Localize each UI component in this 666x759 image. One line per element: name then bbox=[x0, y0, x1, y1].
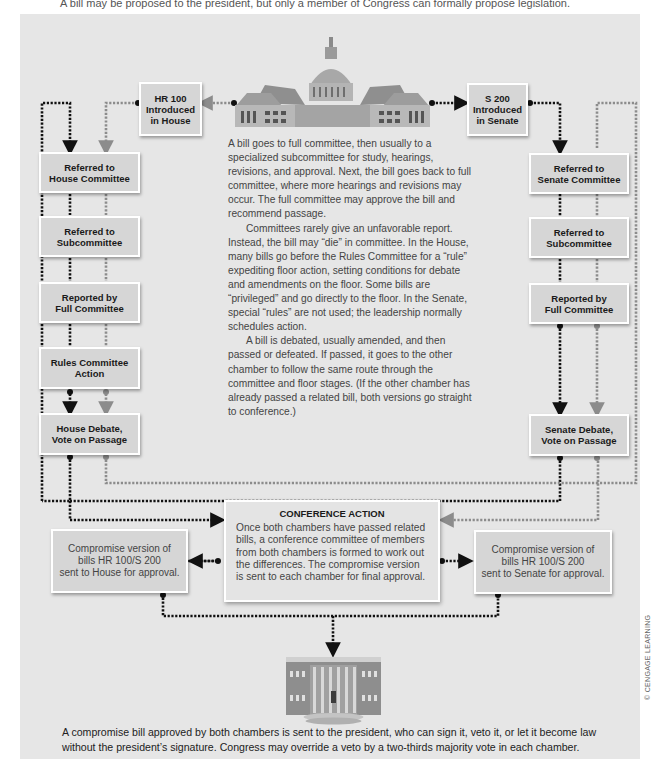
white-house-icon bbox=[286, 657, 381, 725]
box-line: Reported by bbox=[55, 292, 124, 303]
box-line: Senate Committee bbox=[538, 174, 621, 185]
box-line: sent to House for approval. bbox=[59, 567, 179, 579]
hr100-introduced-box: HR 100Introducedin House bbox=[139, 82, 202, 136]
box-line: bills HR 100/S 200 bbox=[59, 555, 179, 567]
bill-number: S 200 bbox=[473, 93, 522, 104]
box-line: Compromise version of bbox=[59, 543, 179, 555]
conference-text: Once both chambers have passed related b… bbox=[236, 522, 428, 583]
house-step-subcommittee: Referred toSubcommittee bbox=[39, 216, 140, 257]
box-line: Referred to bbox=[546, 227, 611, 238]
senate-step-debate: Senate Debate,Vote on Passage bbox=[529, 414, 629, 456]
explanation-paragraph: Committees rarely give an unfavorable re… bbox=[228, 222, 473, 335]
senate-step-committee: Referred toSenate Committee bbox=[529, 153, 629, 194]
box-line: House Debate, bbox=[52, 423, 127, 434]
box-line: Vote on Passage bbox=[52, 434, 127, 445]
house-step-committee: Referred toHouse Committee bbox=[39, 152, 140, 193]
house-step-rules-committee: Rules CommitteeAction bbox=[39, 347, 140, 389]
box-line: Action bbox=[51, 368, 129, 379]
copyright-credit: © CENGAGE LEARNING bbox=[644, 615, 651, 700]
box-line: Referred to bbox=[538, 163, 621, 174]
explanation-paragraph: A bill goes to full committee, then usua… bbox=[228, 137, 473, 222]
box-line: Full Committee bbox=[55, 303, 124, 314]
bill-number: HR 100 bbox=[146, 93, 195, 104]
box-line: bills HR 100/S 200 bbox=[482, 556, 605, 568]
president-action-text: A compromise bill approved by both chamb… bbox=[62, 725, 622, 755]
box-line: Reported by bbox=[545, 293, 614, 304]
box-line: House Committee bbox=[49, 173, 130, 184]
box-line: Subcommittee bbox=[57, 237, 122, 248]
s200-introduced-box: S 200Introducedin Senate bbox=[467, 83, 528, 136]
box-line: Subcommittee bbox=[546, 238, 611, 249]
box-line: Introduced bbox=[473, 104, 522, 115]
box-line: in House bbox=[146, 115, 195, 126]
box-line: Introduced bbox=[146, 104, 195, 115]
box-line: Senate Debate, bbox=[541, 424, 616, 435]
box-line: Compromise version of bbox=[482, 544, 605, 556]
explanation-paragraph: A bill is debated, usually amended, and … bbox=[228, 334, 473, 419]
conference-action-box: CONFERENCE ACTION Once both chambers hav… bbox=[224, 500, 440, 602]
capitol-building-icon bbox=[235, 35, 430, 127]
box-line: sent to Senate for approval. bbox=[482, 568, 605, 580]
conference-title: CONFERENCE ACTION bbox=[236, 508, 428, 520]
box-line: Referred to bbox=[57, 226, 122, 237]
box-line: Referred to bbox=[49, 162, 130, 173]
compromise-house-box: Compromise version ofbills HR 100/S 200s… bbox=[51, 529, 188, 593]
box-line: in Senate bbox=[473, 115, 522, 126]
box-line: Rules Committee bbox=[51, 357, 129, 368]
senate-step-subcommittee: Referred toSubcommittee bbox=[529, 217, 629, 258]
box-line: Full Committee bbox=[545, 304, 614, 315]
compromise-senate-box: Compromise version ofbills HR 100/S 200s… bbox=[474, 530, 612, 594]
process-explanation: A bill goes to full committee, then usua… bbox=[228, 137, 473, 419]
house-step-debate: House Debate,Vote on Passage bbox=[39, 413, 140, 455]
senate-step-reported: Reported byFull Committee bbox=[529, 283, 629, 324]
house-step-reported: Reported byFull Committee bbox=[39, 282, 140, 323]
box-line: Vote on Passage bbox=[541, 435, 616, 446]
